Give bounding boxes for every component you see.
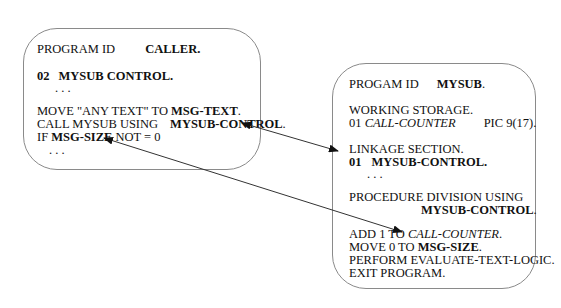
mysub-procedure-using: MYSUB-CONTROL. <box>421 204 537 217</box>
mysub-program-id: PROGAM IDMYSUB. <box>349 78 485 91</box>
caller-program-id: PROGRAM IDCALLER. <box>37 43 200 56</box>
mysub-exit-stmt: EXIT PROGRAM. <box>349 267 445 280</box>
caller-ellipsis-2: . . . <box>49 144 65 157</box>
mysub-ellipsis: . . . <box>367 168 383 181</box>
mysub-ws-field: 01 CALL-COUNTERPIC 9(17). <box>349 117 536 130</box>
caller-ellipsis-1: . . . <box>55 82 71 95</box>
